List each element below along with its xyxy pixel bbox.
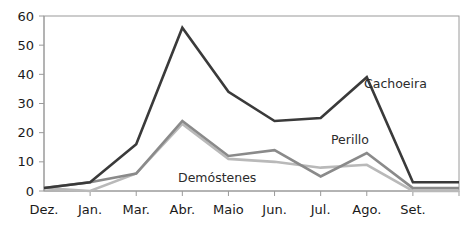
y-tick-label: 50 (17, 38, 34, 53)
series-label-cachoeira: Cachoeira (364, 76, 427, 91)
y-tick-label: 60 (17, 9, 34, 24)
y-tick-label: 10 (17, 154, 34, 169)
plot-area-frame (44, 16, 459, 191)
y-axis-tick-labels: 0102030405060 (17, 9, 34, 199)
series-lines-group (44, 28, 459, 191)
x-tick-label: Jun. (261, 202, 286, 217)
x-tick-label: Set. (400, 202, 425, 217)
y-tick-label: 20 (17, 125, 34, 140)
chart-canvas: 0102030405060 Dez.Jan.Mar.Abr.MaioJun.Ju… (0, 0, 469, 232)
x-tick-label: Jan. (77, 202, 102, 217)
line-chart: 0102030405060 Dez.Jan.Mar.Abr.MaioJun.Ju… (0, 0, 469, 232)
x-tick-label: Maio (213, 202, 244, 217)
y-axis-ticks (39, 16, 44, 191)
x-tick-label: Mar. (122, 202, 149, 217)
x-tick-label: Ago. (352, 202, 381, 217)
y-tick-label: 40 (17, 67, 34, 82)
x-tick-label: Abr. (170, 202, 195, 217)
y-tick-label: 30 (17, 96, 34, 111)
series-line-cachoeira (44, 28, 459, 188)
x-tick-label: Dez. (30, 202, 59, 217)
series-label-perillo: Perillo (331, 132, 369, 147)
series-label-dem-stenes: Demóstenes (178, 170, 256, 185)
x-tick-label: Jul. (310, 202, 331, 217)
x-axis-ticks (90, 191, 459, 196)
y-tick-label: 0 (26, 184, 34, 199)
x-axis-tick-labels: Dez.Jan.Mar.Abr.MaioJun.Jul.Ago.Set. (30, 202, 426, 217)
